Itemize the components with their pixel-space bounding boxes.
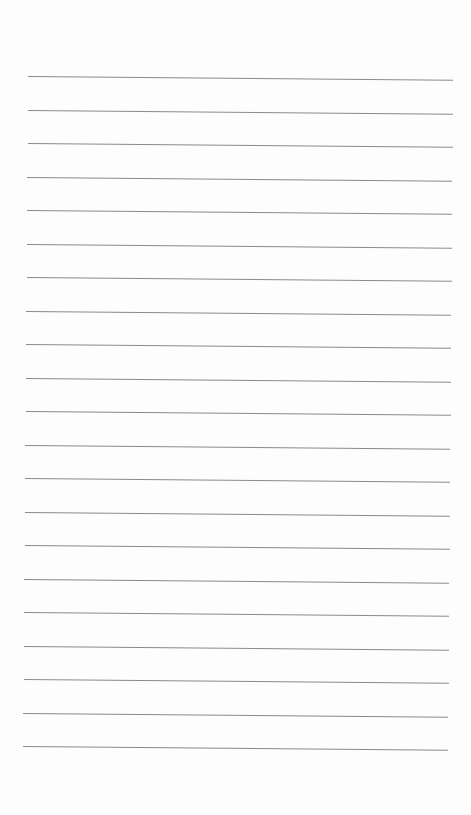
ruled-line xyxy=(23,713,448,718)
ruled-line xyxy=(26,344,451,349)
ruled-line xyxy=(25,445,450,450)
ruled-line xyxy=(27,143,452,148)
ruled-line xyxy=(25,478,450,483)
ruled-line xyxy=(26,277,451,282)
ruled-line xyxy=(28,110,453,115)
ruled-line xyxy=(26,311,451,316)
ruled-line xyxy=(23,679,448,684)
ruled-line xyxy=(25,411,450,416)
ruled-line xyxy=(28,76,453,81)
ruled-line xyxy=(25,512,450,517)
ruled-line xyxy=(26,378,451,383)
ruled-line xyxy=(23,746,448,751)
ruled-line xyxy=(24,612,449,617)
ruled-line xyxy=(24,646,449,651)
ruled-line xyxy=(27,244,452,249)
ruled-line xyxy=(27,177,452,182)
ruled-line xyxy=(24,545,449,550)
ruled-line xyxy=(24,579,449,584)
ruled-line xyxy=(27,210,452,215)
